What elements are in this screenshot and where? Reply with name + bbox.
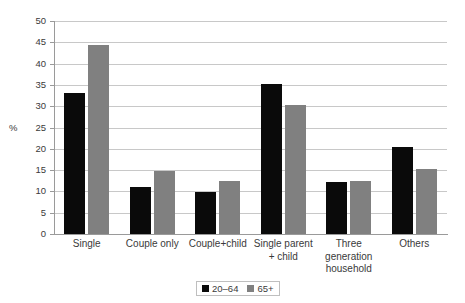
legend-label: 65+: [257, 284, 273, 294]
y-axis-tick-label-wrap: 20: [0, 144, 46, 154]
bar-5-series-1: [416, 169, 437, 234]
bar-1-series-1: [154, 171, 175, 234]
y-axis-tick-label-wrap: 5: [0, 208, 46, 218]
plot-area: [54, 21, 447, 234]
y-axis-tick-label-wrap: 30: [0, 101, 46, 111]
bar-0-series-0: [64, 93, 85, 234]
y-axis-tick-label-wrap: 35: [0, 80, 46, 90]
bar-chart: 50454035302520151050 % SingleCouple only…: [0, 0, 465, 303]
y-axis-tick-label: 50: [6, 16, 46, 26]
y-axis-tick-label: 40: [6, 59, 46, 69]
bar-2-series-1: [219, 181, 240, 234]
x-axis-line: [54, 234, 448, 235]
y-axis-tick-label: 15: [6, 165, 46, 175]
y-axis-tick-label: 10: [6, 186, 46, 196]
legend-item-0[interactable]: 20–64: [202, 284, 238, 294]
y-axis-tick-label: 45: [6, 37, 46, 47]
y-axis-tick-label: 5: [6, 208, 46, 218]
bar-2-series-0: [195, 192, 216, 234]
y-axis-tick-label: 20: [6, 144, 46, 154]
bar-3-series-1: [285, 105, 306, 234]
y-axis-tick-label-wrap: 0: [0, 229, 46, 239]
bar-3-series-0: [261, 84, 282, 234]
legend-swatch-icon: [202, 285, 209, 292]
y-axis-title: %: [9, 123, 27, 133]
y-axis-tick-label-wrap: 40: [0, 59, 46, 69]
y-axis-tick-label-wrap: 50: [0, 16, 46, 26]
bar-4-series-1: [350, 181, 371, 234]
bar-4-series-0: [326, 182, 347, 234]
x-axis-category-label: Others: [376, 238, 454, 251]
x-axis-label-line: Others: [376, 238, 454, 251]
legend-swatch-icon: [247, 285, 254, 292]
x-axis-label-line: generation: [310, 251, 388, 264]
y-axis-tick-label: 0: [6, 229, 46, 239]
bar-5-series-0: [392, 147, 413, 234]
y-axis-tick-label: 30: [6, 101, 46, 111]
legend-item-1[interactable]: 65+: [247, 284, 273, 294]
bar-1-series-0: [130, 187, 151, 234]
x-axis-label-line: household: [310, 263, 388, 276]
chart-legend: 20–6465+: [196, 281, 280, 296]
legend-label: 20–64: [212, 284, 238, 294]
y-axis-tick-label-wrap: 45: [0, 37, 46, 47]
y-axis-tick-label: 35: [6, 80, 46, 90]
y-axis-tick-label-wrap: 10: [0, 186, 46, 196]
bar-0-series-1: [88, 45, 109, 234]
y-axis-tick-label-wrap: 15: [0, 165, 46, 175]
